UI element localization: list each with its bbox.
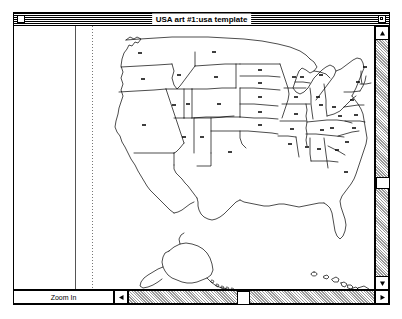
scroll-up-button[interactable] [375,26,389,40]
zoom-in-control[interactable]: Zoom In [14,290,114,304]
triangle-right-icon [379,294,386,301]
zoom-box[interactable] [378,15,386,23]
title-bar[interactable]: USA art #1:usa template [14,13,389,26]
window-content: Zoom In [14,26,389,304]
drawing-canvas[interactable] [14,26,375,290]
zoom-in-label: Zoom In [51,294,77,301]
scroll-right-button[interactable] [375,290,389,304]
horizontal-scrollbar[interactable] [128,290,375,304]
screen: USA art #1:usa template [0,0,402,319]
close-box-inner [19,17,23,21]
vertical-scrollbar-thumb[interactable] [376,177,390,189]
scroll-down-button[interactable] [375,276,389,290]
usa-map[interactable] [14,26,375,290]
horizontal-scrollbar-thumb[interactable] [237,291,250,305]
triangle-left-icon [118,294,125,301]
vertical-scrollbar[interactable] [375,26,389,290]
triangle-up-icon [379,30,386,37]
triangle-down-icon [379,280,386,287]
document-window: USA art #1:usa template [13,12,390,305]
scroll-left-button[interactable] [114,290,128,304]
close-box[interactable] [17,15,25,23]
canvas-inner [14,26,374,289]
zoom-box-inner [380,17,383,20]
window-title: USA art #1:usa template [152,14,252,25]
